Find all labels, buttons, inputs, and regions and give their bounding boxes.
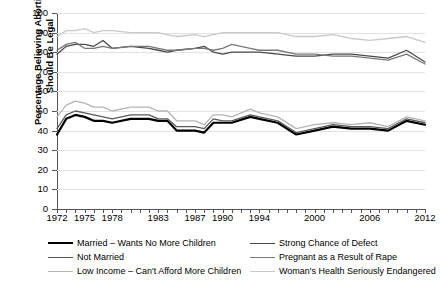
legend-item[interactable]: Married – Wants No More Children bbox=[48, 236, 250, 250]
legend-swatch-line-icon bbox=[250, 243, 275, 244]
x-tick-label: 2012 bbox=[405, 212, 440, 223]
legend-label: Married – Wants No More Children bbox=[77, 238, 216, 249]
x-tick-mark bbox=[342, 209, 343, 213]
series-line-2 bbox=[57, 101, 425, 128]
legend-label: Low Income – Can't Afford More Children bbox=[77, 266, 241, 277]
legend-item[interactable]: Strong Chance of Defect bbox=[250, 236, 432, 250]
legend-label: Woman's Health Seriously Endangered bbox=[279, 266, 436, 277]
legend-swatch-line-icon bbox=[48, 257, 73, 258]
legend-label: Pregnant as a Result of Rape bbox=[279, 252, 397, 263]
legend-item[interactable]: Pregnant as a Result of Rape bbox=[250, 250, 432, 264]
abortion-attitudes-line-chart: Percentage Believing Abortion Should Be … bbox=[0, 0, 440, 284]
legend-swatch-line-icon bbox=[48, 271, 73, 272]
legend-item[interactable]: Woman's Health Seriously Endangered bbox=[250, 264, 432, 278]
legend-label: Not Married bbox=[77, 252, 124, 263]
x-tick-label: 1978 bbox=[92, 212, 132, 223]
series-line-5 bbox=[57, 29, 425, 43]
x-tick-label: 1990 bbox=[203, 212, 243, 223]
series-line-4 bbox=[57, 42, 425, 64]
legend-swatch-line-icon bbox=[250, 257, 275, 258]
x-tick-mark bbox=[287, 209, 288, 213]
x-tick-mark bbox=[397, 209, 398, 213]
legend-swatch-line-icon bbox=[250, 271, 275, 272]
x-tick-label: 2000 bbox=[295, 212, 335, 223]
x-tick-label: 1983 bbox=[138, 212, 178, 223]
legend-label: Strong Chance of Defect bbox=[279, 238, 378, 249]
legend-swatch-line-icon bbox=[48, 242, 73, 244]
x-tick-label: 2006 bbox=[350, 212, 390, 223]
series-line-3 bbox=[57, 40, 425, 62]
legend-item[interactable]: Low Income – Can't Afford More Children bbox=[48, 264, 250, 278]
legend-item[interactable]: Not Married bbox=[48, 250, 250, 264]
chart-legend: Married – Wants No More ChildrenStrong C… bbox=[48, 236, 432, 278]
x-tick-label: 1994 bbox=[239, 212, 279, 223]
